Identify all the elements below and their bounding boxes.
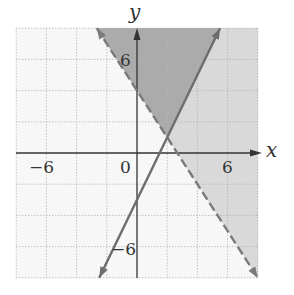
x-tick-6: 6 [222, 157, 233, 177]
y-tick-6: 6 [120, 50, 131, 70]
x-tick-neg6: −6 [29, 157, 54, 177]
y-tick-neg6: −6 [111, 239, 136, 259]
x-axis-label: x [266, 138, 277, 162]
x-tick-0: 0 [120, 157, 131, 177]
y-axis-label: y [129, 0, 140, 24]
inequality-graph [0, 0, 294, 295]
